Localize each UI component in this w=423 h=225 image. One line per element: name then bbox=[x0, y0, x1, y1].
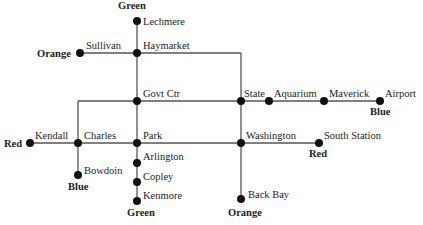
station-label-south-station: South Station bbox=[324, 130, 382, 141]
line-end-label-red-east: Red bbox=[309, 148, 327, 159]
line-end-label-orange-north: Orange bbox=[37, 48, 71, 59]
station-label-aquarium: Aquarium bbox=[274, 88, 317, 99]
station-dot-back-bay bbox=[237, 195, 245, 203]
station-dot-sullivan bbox=[76, 49, 84, 57]
station-dot-copley bbox=[133, 178, 141, 186]
station-dot-washington bbox=[237, 139, 245, 147]
station-label-state: State bbox=[244, 88, 265, 99]
station-label-govt-ctr: Govt Ctr bbox=[143, 88, 181, 99]
line-end-labels: GreenOrangeBlueRedRedBlueGreenOrange bbox=[4, 0, 391, 218]
station-label-charles: Charles bbox=[84, 130, 116, 141]
station-dot-kenmore bbox=[133, 197, 141, 205]
station-dot-airport bbox=[376, 97, 384, 105]
station-label-copley: Copley bbox=[143, 171, 174, 182]
station-label-park: Park bbox=[143, 130, 163, 141]
station-label-arlington: Arlington bbox=[143, 151, 185, 162]
station-label-maverick: Maverick bbox=[329, 88, 370, 99]
station-dot-south-station bbox=[315, 139, 323, 147]
station-label-sullivan: Sullivan bbox=[86, 40, 122, 51]
station-label-washington: Washington bbox=[246, 130, 297, 141]
station-dot-charles bbox=[74, 139, 82, 147]
station-label-bowdoin: Bowdoin bbox=[84, 165, 123, 176]
line-end-label-green-north: Green bbox=[118, 0, 146, 11]
line-end-label-blue-east: Blue bbox=[370, 106, 391, 117]
station-dot-kendall bbox=[26, 139, 34, 147]
station-dot-arlington bbox=[133, 159, 141, 167]
station-label-kenmore: Kenmore bbox=[143, 190, 182, 201]
station-dot-aquarium bbox=[265, 97, 273, 105]
line-end-label-red-west: Red bbox=[4, 138, 22, 149]
station-stops bbox=[26, 17, 384, 205]
station-dot-lechmere bbox=[133, 17, 141, 25]
station-label-back-bay: Back Bay bbox=[248, 189, 290, 200]
station-label-haymarket: Haymarket bbox=[143, 40, 190, 51]
station-dot-maverick bbox=[320, 97, 328, 105]
subway-map: LechmereSullivanHaymarketGovt CtrStateAq… bbox=[0, 0, 423, 225]
line-end-label-green-south: Green bbox=[127, 207, 155, 218]
station-dot-haymarket bbox=[133, 49, 141, 57]
station-label-airport: Airport bbox=[385, 88, 416, 99]
station-label-lechmere: Lechmere bbox=[143, 16, 185, 27]
line-end-label-blue-west: Blue bbox=[68, 181, 89, 192]
station-dot-park bbox=[133, 139, 141, 147]
station-label-kendall: Kendall bbox=[35, 130, 68, 141]
station-dot-govt-ctr bbox=[133, 97, 141, 105]
line-segments bbox=[30, 21, 380, 201]
station-dot-bowdoin bbox=[74, 171, 82, 179]
line-end-label-orange-south: Orange bbox=[228, 207, 262, 218]
station-labels: LechmereSullivanHaymarketGovt CtrStateAq… bbox=[35, 16, 416, 201]
